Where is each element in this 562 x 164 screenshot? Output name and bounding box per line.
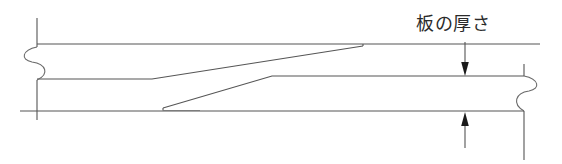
drawing-canvas: 板の厚さ: [0, 0, 562, 164]
upper-thickness-arrow: [461, 42, 469, 76]
lower-thickness-arrow-head: [461, 112, 469, 126]
lower-thickness-arrow: [461, 112, 469, 148]
left-break-scurve-icon: [24, 47, 45, 80]
left-break-line: [24, 18, 45, 120]
plate-thickness-label: 板の厚さ: [416, 15, 490, 33]
lower-plate-outline: [20, 76, 524, 111]
upper-plate-taper-edge: [37, 46, 363, 79]
right-break-scurve-icon: [517, 76, 537, 111]
upper-thickness-arrow-head: [461, 62, 469, 76]
lower-plate-taper-edge: [163, 76, 524, 108]
right-break-line: [517, 64, 537, 160]
